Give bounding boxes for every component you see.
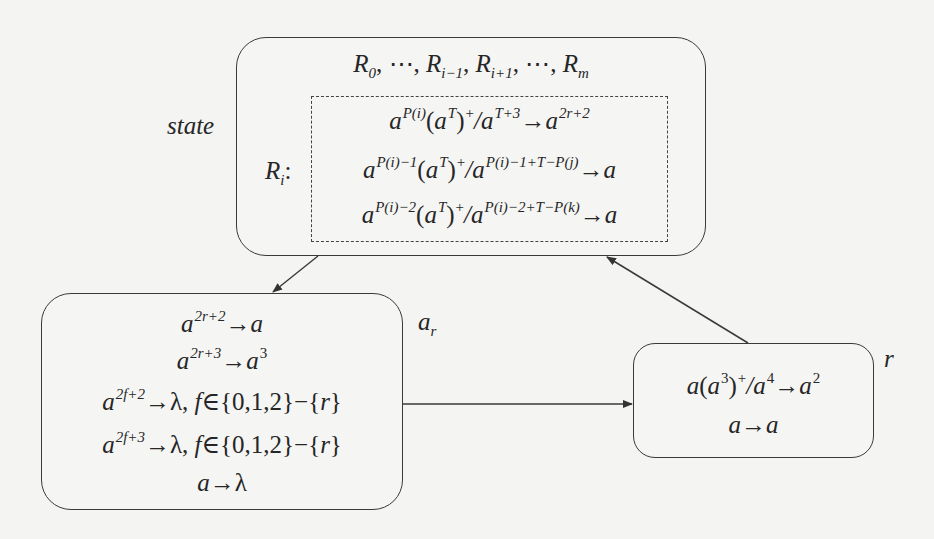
ri-rule-2: aP(i)−1(aT)+/aP(i)−1+T−P(j)→a [312, 157, 667, 182]
edge-state-to-ar [273, 256, 318, 292]
edge-r-to-state [607, 257, 748, 343]
ar-rule-4: a2f+3→λ, f∈{0,1,2}−{r} [42, 432, 402, 457]
ar-rule-2: a2r+3→a3 [42, 348, 402, 373]
ar-rule-5: a→λ [42, 470, 402, 495]
state-header-rules: R0, ⋯, Ri−1, Ri+1, ⋯, Rm [237, 51, 705, 76]
ri-group-label: Ri: [265, 158, 291, 183]
r-node-label: r [884, 346, 894, 371]
r-node: a(a3)+/a4→a2 a→a [633, 343, 874, 458]
state-node-label: state [167, 113, 214, 138]
ar-node: a2r+2→a a2r+3→a3 a2f+2→λ, f∈{0,1,2}−{r} … [41, 293, 403, 510]
ar-rule-3: a2f+2→λ, f∈{0,1,2}−{r} [42, 389, 402, 414]
ri-rule-1: aP(i)(aT)+/aT+3→a2r+2 [312, 108, 667, 133]
ri-rule-3: aP(i)−2(aT)+/aP(i)−2+T−P(k)→a [312, 202, 667, 227]
ri-rules-group: aP(i)(aT)+/aT+3→a2r+2 aP(i)−1(aT)+/aP(i)… [311, 96, 668, 242]
r-rule-2: a→a [634, 412, 873, 437]
ar-rule-1: a2r+2→a [42, 311, 402, 336]
ar-node-label: ar [418, 309, 436, 334]
r-rule-1: a(a3)+/a4→a2 [634, 373, 873, 398]
